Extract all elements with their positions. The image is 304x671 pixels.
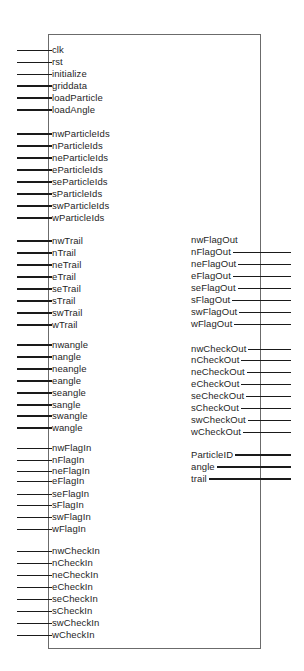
input-port-label: loadAngle [52, 104, 95, 116]
input-wire-swFlagIn [17, 517, 52, 518]
output-wire-neCheckOut [247, 372, 291, 373]
input-port-label: seCheckIn [52, 593, 98, 605]
input-wire-loadParticle [17, 97, 52, 100]
output-wire-sFlagOut [232, 300, 291, 301]
input-port-label: nwCheckIn [52, 545, 100, 557]
input-wire-nwCheckIn [17, 551, 52, 552]
input-port-label: seParticleIds [52, 176, 108, 188]
output-port-label: ParticleID [191, 449, 233, 461]
output-wire-wCheckOut [243, 432, 291, 433]
output-wire-nCheckOut [241, 360, 291, 361]
input-port-label: sParticleIds [52, 188, 102, 200]
input-wire-sTrail [17, 300, 52, 303]
input-port-label: griddata [52, 80, 87, 92]
input-wire-sFlagIn [17, 505, 52, 506]
input-wire-nwParticleIds [17, 133, 52, 136]
input-port-label: clk [52, 44, 64, 56]
input-port-label: sCheckIn [52, 605, 92, 617]
input-wire-neFlagIn [17, 471, 52, 472]
input-port-label: neParticleIds [52, 152, 108, 164]
input-port-label: swangle [52, 410, 88, 422]
input-wire-sParticleIds [17, 193, 52, 196]
output-port-label: seFlagOut [191, 282, 236, 294]
input-port-label: eCheckIn [52, 581, 93, 593]
input-port-label: neTrail [52, 259, 81, 271]
input-wire-initialize [17, 74, 52, 75]
input-port-label: sFlagIn [52, 499, 84, 511]
output-port-label: eFlagOut [191, 270, 231, 282]
output-wire-neFlagOut [238, 264, 291, 265]
input-port-label: nTrail [52, 247, 76, 259]
output-wire-swCheckOut [248, 420, 291, 421]
input-wire-nTrail [17, 252, 52, 255]
output-port-label: nwFlagOut [191, 234, 238, 246]
input-wire-eTrail [17, 276, 52, 279]
output-port-label: swFlagOut [191, 306, 237, 318]
output-wire-swFlagOut [239, 312, 291, 313]
input-wire-neangle [17, 368, 52, 371]
input-port-label: initialize [52, 68, 87, 80]
input-wire-seFlagIn [17, 494, 52, 495]
input-port-label: nwangle [52, 339, 88, 351]
input-port-label: wCheckIn [52, 629, 95, 641]
output-port-label: seCheckOut [191, 390, 244, 402]
input-wire-nwTrail [17, 240, 52, 243]
input-wire-swTrail [17, 312, 52, 315]
output-port-label: wCheckOut [191, 426, 241, 438]
output-wire-angle [217, 466, 291, 469]
input-port-label: eFlagIn [52, 475, 84, 487]
input-wire-loadAngle [17, 109, 52, 112]
input-wire-eParticleIds [17, 169, 52, 172]
input-wire-eCheckIn [17, 587, 52, 588]
input-port-label: wFlagIn [52, 523, 86, 535]
input-port-label: seangle [52, 387, 86, 399]
input-wire-wFlagIn [17, 529, 52, 530]
output-wire-wFlagOut [234, 324, 291, 325]
input-wire-seTrail [17, 288, 52, 291]
input-port-label: nangle [52, 351, 81, 363]
output-wire-nwCheckOut [248, 349, 291, 350]
input-wire-griddata [17, 85, 52, 88]
output-port-label: eCheckOut [191, 378, 239, 390]
input-wire-nangle [17, 356, 52, 359]
input-port-label: nwTrail [52, 235, 83, 247]
input-port-label: swTrail [52, 307, 82, 319]
input-wire-nParticleIds [17, 145, 52, 148]
output-wire-seCheckOut [246, 396, 291, 397]
output-wire-sCheckOut [241, 408, 291, 409]
input-port-label: wTrail [52, 319, 78, 331]
input-wire-swangle [17, 415, 52, 418]
module-block-diagram: clkrstinitializegriddataloadParticleload… [0, 0, 304, 671]
input-wire-neTrail [17, 264, 52, 267]
input-wire-swParticleIds [17, 205, 52, 208]
input-wire-sangle [17, 404, 52, 407]
input-port-label: nParticleIds [52, 140, 103, 152]
output-port-label: nFlagOut [191, 246, 231, 258]
input-wire-nwFlagIn [17, 448, 52, 449]
input-port-label: nwFlagIn [52, 442, 91, 454]
input-wire-seangle [17, 392, 52, 395]
output-port-label: sFlagOut [191, 294, 230, 306]
output-wire-ParticleID [235, 454, 291, 457]
input-port-label: nwParticleIds [52, 128, 110, 140]
input-wire-wTrail [17, 324, 52, 327]
input-port-label: swFlagIn [52, 511, 91, 523]
input-wire-neParticleIds [17, 157, 52, 160]
input-wire-rst [17, 62, 52, 63]
input-wire-wCheckIn [17, 635, 52, 636]
input-wire-nFlagIn [17, 460, 52, 461]
input-port-label: loadParticle [52, 92, 103, 104]
output-wire-eCheckOut [241, 384, 291, 385]
input-port-label: eTrail [52, 271, 76, 283]
input-wire-nwangle [17, 344, 52, 347]
input-wire-wParticleIds [17, 217, 52, 220]
input-port-label: wParticleIds [52, 212, 104, 224]
input-port-label: wangle [52, 422, 83, 434]
input-wire-sCheckIn [17, 611, 52, 612]
input-wire-wangle [17, 427, 52, 430]
input-port-label: nCheckIn [52, 557, 93, 569]
input-port-label: swCheckIn [52, 617, 99, 629]
output-wire-seFlagOut [238, 288, 291, 289]
input-wire-eangle [17, 380, 52, 383]
output-port-label: sCheckOut [191, 402, 239, 414]
